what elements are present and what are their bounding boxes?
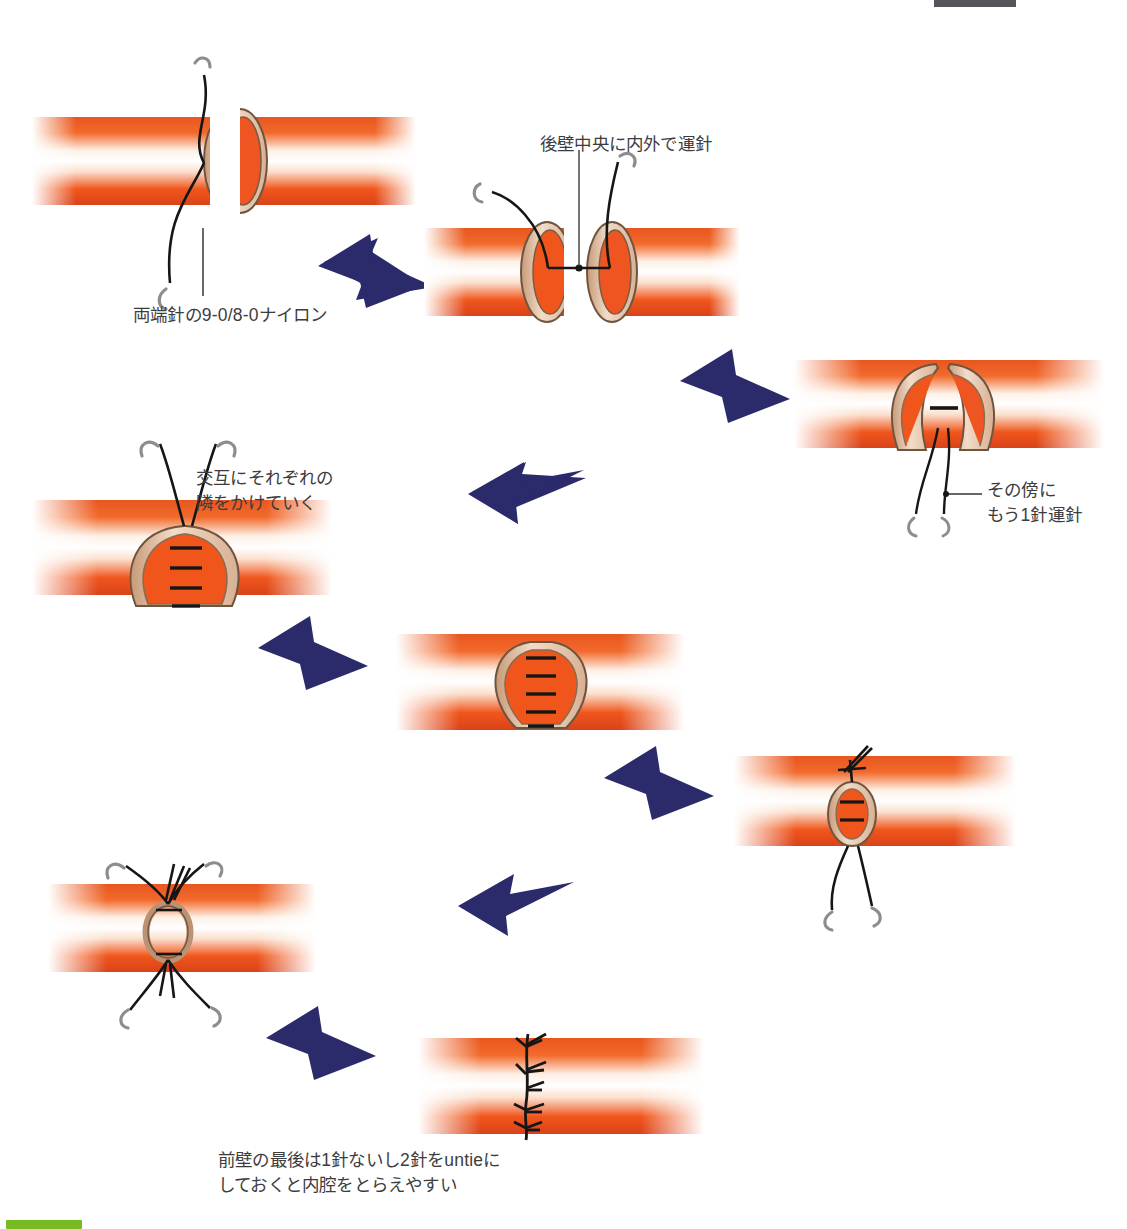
step-5-illustration	[390, 624, 690, 740]
flow-arrow-5	[602, 740, 720, 824]
step-8-illustration	[410, 1030, 710, 1142]
needle-icon	[909, 518, 949, 536]
step-6-illustration	[726, 738, 1026, 933]
step-3-note-line-2: もう1針運針	[987, 503, 1082, 528]
flow-arrow-7	[264, 1000, 382, 1084]
vessel-open-lumen	[495, 642, 586, 728]
step-1-note: 両端針の9-0/8-0ナイロン	[133, 303, 327, 328]
vessel-lumen-small	[828, 782, 876, 846]
step-3-note-line-1: その傍に	[987, 478, 1056, 503]
step-2-illustration	[414, 150, 744, 355]
bottom-caption-line-1: 前壁の最後は1針ないし2針をuntieに	[218, 1148, 500, 1173]
illustration-canvas: 両端針の9-0/8-0ナイロン 後壁中央に内外で運針	[0, 0, 1127, 1229]
step-4-illustration	[26, 430, 346, 615]
vessel-tube	[418, 1038, 704, 1134]
vessel-segment-right	[587, 222, 740, 322]
needle-icon	[141, 442, 235, 456]
suture-tails	[832, 846, 872, 910]
step-4-note-line-1: 交互にそれぞれの	[196, 466, 334, 491]
step-4-note-line-2: 隣をかけていく	[196, 491, 316, 516]
page-header-bar	[934, 0, 1016, 7]
flow-arrow-4	[256, 610, 374, 694]
bottom-caption-line-2: しておくと内腔をとらえやすい	[218, 1173, 457, 1198]
flow-arrow-6	[456, 872, 576, 952]
section-marker-bar	[6, 1220, 82, 1229]
needle-icon	[825, 908, 880, 930]
step-1-leader-line	[200, 228, 206, 298]
vessel-segment-right	[213, 109, 416, 213]
flow-arrow-3-shape	[466, 460, 586, 540]
flow-arrow-2	[678, 343, 796, 427]
vessel-tube	[48, 884, 316, 972]
step-7-illustration	[34, 856, 334, 1021]
